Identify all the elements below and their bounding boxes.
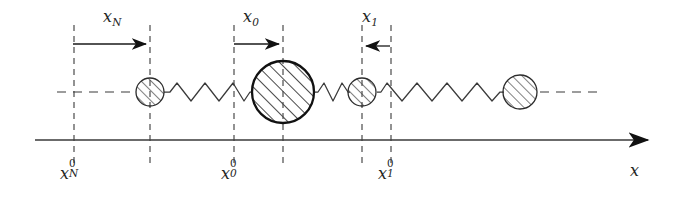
label-equilibrium-xN0: x0N [60, 163, 79, 182]
displacement-arrows [73, 44, 390, 46]
label-equilibrium-x10: x01 [378, 163, 397, 182]
figure-canvas [0, 0, 682, 201]
label-displacement-xN: xN [103, 9, 121, 25]
mass-spring-chain-figure: xN x0 x1 x0N x00 x01 x [0, 0, 682, 201]
masses-group [136, 61, 537, 123]
dashed-vertical-guides [74, 25, 391, 166]
label-x-axis: x [630, 163, 639, 179]
label-displacement-x1: x1 [362, 9, 378, 25]
spring-1-to-right [377, 83, 504, 101]
label-equilibrium-x00: x00 [221, 163, 240, 182]
label-displacement-x0: x0 [243, 9, 259, 25]
springs-group [164, 83, 504, 101]
mass-right [503, 75, 537, 109]
mass-0 [252, 61, 314, 123]
mass-N [136, 78, 164, 106]
spring-N-to-0 [164, 83, 252, 101]
mass-1 [348, 78, 376, 106]
spring-0-to-1 [313, 83, 350, 101]
